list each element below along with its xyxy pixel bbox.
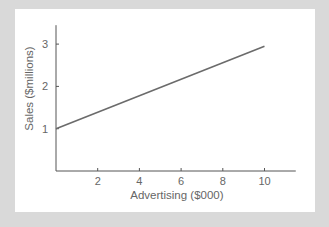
axes — [56, 25, 296, 171]
y-tick-label: 1 — [42, 123, 48, 135]
y-tick-label: 3 — [42, 38, 48, 50]
data-line — [56, 46, 265, 128]
x-tick-label: 4 — [136, 175, 142, 187]
y-axis-label: Sales ($millions) — [23, 46, 35, 131]
ticks: 246810123 — [42, 38, 271, 187]
x-tick-label: 8 — [220, 175, 226, 187]
x-tick-label: 2 — [95, 175, 101, 187]
y-tick-label: 2 — [42, 80, 48, 92]
data-series — [56, 46, 265, 128]
x-axis-label: Advertising ($000) — [130, 189, 223, 201]
line-chart: 246810123 Advertising ($000) Sales ($mil… — [0, 0, 329, 227]
x-tick-label: 6 — [178, 175, 184, 187]
x-tick-label: 10 — [258, 175, 270, 187]
